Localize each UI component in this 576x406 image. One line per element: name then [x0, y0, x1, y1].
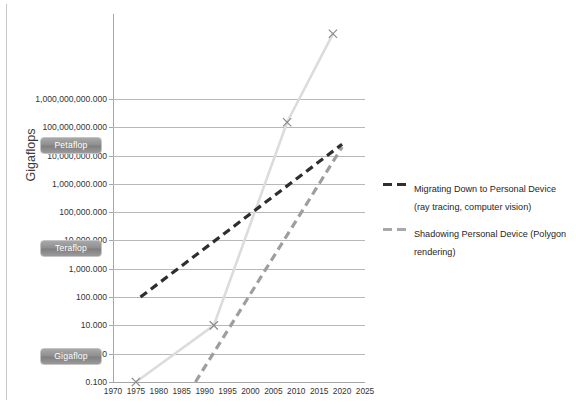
legend-label-migrating: Migrating Down to Personal Device (ray t…	[414, 184, 556, 212]
data-point-marker-x-icon	[329, 30, 337, 38]
series-line-migrating	[140, 144, 342, 297]
chart-legend: Migrating Down to Personal Device (ray t…	[383, 178, 573, 268]
legend-item-shadowing: Shadowing Personal Device (Polygon rende…	[383, 223, 573, 259]
badge-petaflop: Petaflop	[40, 137, 102, 154]
legend-swatch-dark-dashed-icon	[383, 183, 409, 186]
legend-swatch-gray-dashed-icon	[383, 228, 409, 231]
badge-gigaflop: Gigaflop	[40, 348, 102, 365]
series-line-supercomputer	[136, 34, 333, 382]
legend-label-shadowing: Shadowing Personal Device (Polygon rende…	[414, 229, 566, 257]
legend-item-migrating: Migrating Down to Personal Device (ray t…	[383, 178, 573, 214]
badge-teraflop: Teraflop	[40, 240, 102, 257]
series-line-shadowing	[195, 147, 342, 382]
chart-root: Gigaflops 1,000,000,000.000100,000,000.0…	[0, 0, 576, 406]
data-point-marker-x-icon	[132, 378, 140, 386]
